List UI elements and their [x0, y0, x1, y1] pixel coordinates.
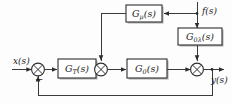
input-signal-text: x(s) [13, 56, 30, 66]
g-0-block-label: G0(s) [127, 64, 167, 74]
block-diagram-canvas: Gμ(s) G0λ(s) GT(s) G0(s) x(s) y(s) f(s) … [0, 0, 232, 104]
g-mu-block-label: Gμ(s) [126, 9, 162, 19]
g-t-block-label: GT(s) [58, 64, 96, 74]
g-0lambda-label-tail: (s) [202, 31, 214, 42]
g-mu-label-main: G [132, 8, 140, 19]
branch-dot-disturbance [196, 12, 199, 15]
g-0lambda-block-label: G0λ(s) [178, 32, 222, 42]
input-signal-label: x(s) [13, 57, 30, 66]
sum1-sign-text: − [35, 74, 43, 85]
output-signal-text: y(s) [211, 75, 228, 85]
g-t-label-sub: T [73, 68, 77, 76]
g-t-label-main: G [65, 63, 73, 74]
wire-g-mu-to-sum2 [101, 14, 126, 61]
disturbance-signal-label: f(s) [202, 7, 217, 16]
g-mu-label-sub: μ [140, 13, 144, 21]
g-0lambda-label-main: G [186, 31, 194, 42]
diagram-wiring [0, 0, 232, 104]
disturbance-signal-text: f(s) [202, 6, 217, 16]
g-t-label-tail: (s) [77, 63, 89, 74]
g-mu-label-tail: (s) [144, 8, 156, 19]
sum1-minus-sign: − [35, 75, 43, 85]
output-signal-label: y(s) [211, 76, 228, 85]
g-0-label-tail: (s) [147, 63, 159, 74]
g-0-label-sub: 0 [143, 68, 147, 76]
g-0lambda-label-sub: 0λ [194, 36, 202, 44]
g-0-label-main: G [135, 63, 143, 74]
